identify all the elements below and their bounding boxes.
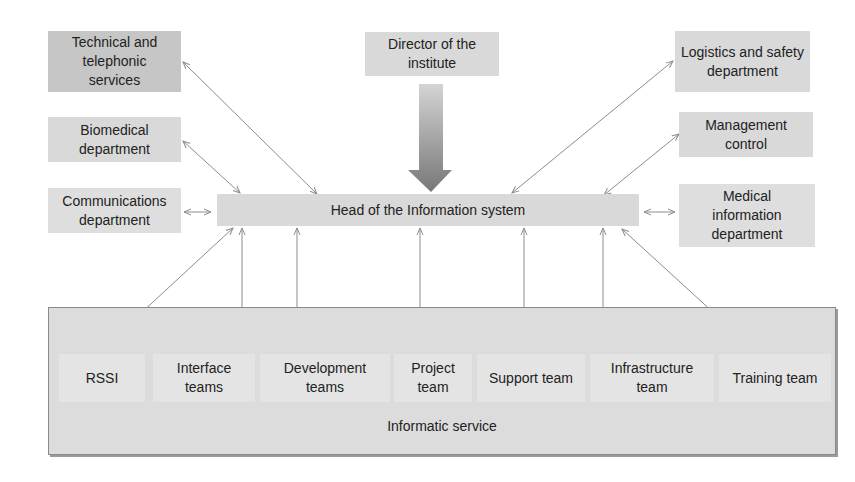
team-label: Infrastructure team — [602, 359, 702, 397]
team-project: Project team — [394, 354, 472, 402]
node-label: Management control — [696, 116, 796, 154]
team-label: Training team — [732, 369, 817, 388]
node-biomedical-department: Biomedical department — [48, 117, 181, 162]
team-label: RSSI — [86, 369, 119, 388]
team-label: Support team — [489, 369, 573, 388]
node-label: Medical information department — [702, 187, 792, 244]
team-label: Development teams — [275, 359, 375, 397]
node-label: Communications department — [50, 192, 180, 230]
arrow-technical-head — [183, 62, 317, 194]
arrow-biomedical-head — [183, 141, 240, 193]
node-logistics-safety-department: Logistics and safety department — [675, 31, 810, 92]
team-interface: Interface teams — [153, 354, 255, 402]
big-down-arrow-icon — [408, 84, 452, 192]
team-support: Support team — [477, 354, 585, 402]
node-management-control: Management control — [679, 112, 813, 157]
node-label: Logistics and safety department — [678, 43, 808, 81]
team-infrastructure: Infrastructure team — [590, 354, 714, 402]
node-label: Biomedical department — [65, 121, 165, 159]
node-label: Director of the institute — [377, 35, 487, 73]
arrow-management-head — [604, 134, 679, 195]
node-director-of-institute: Director of the institute — [365, 32, 499, 76]
team-label: Project team — [403, 359, 463, 397]
node-label: Technical and telephonic services — [60, 33, 170, 90]
node-label: Head of the Information system — [331, 201, 526, 220]
informatic-service-label: Informatic service — [49, 418, 835, 434]
team-rssi: RSSI — [59, 354, 145, 402]
node-technical-telephonic-services: Technical and telephonic services — [48, 31, 181, 92]
team-development: Development teams — [260, 354, 390, 402]
node-head-of-information-system: Head of the Information system — [217, 194, 639, 226]
arrow-logistics-head — [512, 61, 673, 193]
team-label: Interface teams — [164, 359, 244, 397]
informatic-service-container: RSSI Interface teams Development teams P… — [48, 307, 836, 455]
node-medical-information-department: Medical information department — [679, 184, 815, 247]
team-training: Training team — [719, 354, 831, 402]
node-communications-department: Communications department — [48, 188, 181, 233]
